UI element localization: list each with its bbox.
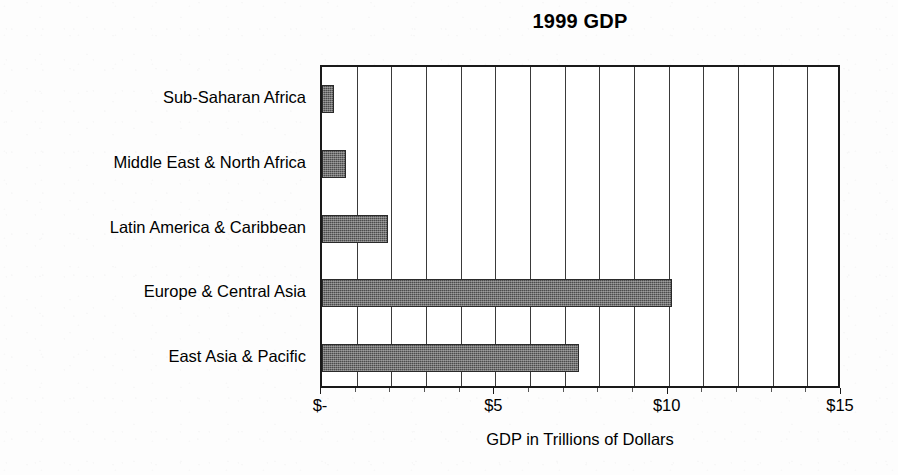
plot-area [320,65,840,388]
tick-mark-minor [597,388,598,392]
tick-mark-minor [355,388,356,392]
gridline [738,67,739,386]
tick-mark-minor [805,388,806,392]
tick-label: $10 [653,396,681,415]
tick-mark-minor [563,388,564,392]
tick-mark-major [320,388,321,394]
tick-mark-major [840,388,841,394]
bar [322,215,388,243]
tick-mark-minor [736,388,737,392]
tick-mark-minor [632,388,633,392]
gridline [461,67,462,386]
chart-title: 1999 GDP [320,10,840,33]
x-axis-title: GDP in Trillions of Dollars [320,430,840,449]
tick-mark-minor [771,388,772,392]
category-label: East Asia & Pacific [6,347,306,365]
gridline [426,67,427,386]
bar [322,85,334,113]
tick-label: $15 [826,396,854,415]
gridline [634,67,635,386]
tick-mark-minor [424,388,425,392]
tick-mark-minor [701,388,702,392]
gridline [565,67,566,386]
gridline [807,67,808,386]
tick-mark-major [493,388,494,394]
category-label: Middle East & North Africa [6,153,306,171]
gridline [530,67,531,386]
tick-mark-minor [389,388,390,392]
gridline [599,67,600,386]
category-label: Europe & Central Asia [6,282,306,300]
gridline [669,67,670,386]
tick-mark-minor [528,388,529,392]
gdp-bar-chart: 1999 GDP Sub-Saharan AfricaMiddle East &… [0,0,898,475]
category-label: Sub-Saharan Africa [6,88,306,106]
category-axis-labels: Sub-Saharan AfricaMiddle East & North Af… [0,65,320,388]
bar [322,344,579,372]
bar [322,279,672,307]
tick-label: $5 [484,396,502,415]
value-axis-ticks: $-$5$10$15 [320,388,840,428]
gridline [391,67,392,386]
tick-mark-major [667,388,668,394]
tick-label: $- [313,396,328,415]
gridline [703,67,704,386]
gridline [773,67,774,386]
category-label: Latin America & Caribbean [6,218,306,236]
bar [322,150,346,178]
gridline [495,67,496,386]
tick-mark-minor [459,388,460,392]
